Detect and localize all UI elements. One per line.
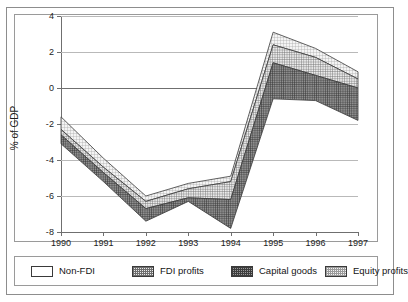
y-axis-title: % of GDP xyxy=(9,106,20,150)
x-tick-mark xyxy=(188,232,189,236)
x-tick-label: 1995 xyxy=(263,238,283,248)
capital-goods-band xyxy=(61,63,358,229)
series-areas xyxy=(61,16,358,232)
x-tick-label: 1994 xyxy=(221,238,241,248)
legend-item-non-fdi[interactable]: Non-FDI xyxy=(31,266,95,277)
legend-item-capital-goods[interactable]: Capital goods xyxy=(231,266,317,277)
y-tick-label: -4 xyxy=(46,155,54,165)
legend-swatch-icon xyxy=(231,266,253,277)
x-tick-mark xyxy=(146,232,147,236)
x-tick-label: 1997 xyxy=(348,238,368,248)
y-tick-label: 0 xyxy=(49,83,54,93)
x-tick-mark xyxy=(103,232,104,236)
legend-item-equity-profits[interactable]: Equity profits xyxy=(325,266,408,277)
x-tick-label: 1996 xyxy=(306,238,326,248)
x-tick-mark xyxy=(231,232,232,236)
legend-label: Equity profits xyxy=(353,266,408,276)
legend-item-fdi-profits[interactable]: FDI profits xyxy=(132,266,204,277)
y-tick-label: 2 xyxy=(49,47,54,57)
y-tick-label: -6 xyxy=(46,191,54,201)
x-tick-label: 1991 xyxy=(93,238,113,248)
x-tick-mark xyxy=(316,232,317,236)
x-tick-mark xyxy=(61,232,62,236)
y-tick-label: -8 xyxy=(46,227,54,237)
legend-label: Non-FDI xyxy=(59,266,95,276)
x-tick-label: 1992 xyxy=(136,238,156,248)
legend-swatch-icon xyxy=(325,266,347,277)
y-tick-label: -2 xyxy=(46,119,54,129)
legend-swatch-icon xyxy=(31,266,53,277)
x-tick-label: 1993 xyxy=(178,238,198,248)
x-tick-mark xyxy=(273,232,274,236)
gridline--8 xyxy=(61,232,358,233)
legend-swatch-icon xyxy=(132,266,154,277)
y-tick-label: 4 xyxy=(49,11,54,21)
legend-label: Capital goods xyxy=(259,266,317,276)
legend-label: FDI profits xyxy=(160,266,204,276)
x-tick-mark xyxy=(358,232,359,236)
x-tick-label: 1990 xyxy=(51,238,71,248)
chart-legend: Non-FDIFDI profitsCapital goodsEquity pr… xyxy=(14,256,378,286)
